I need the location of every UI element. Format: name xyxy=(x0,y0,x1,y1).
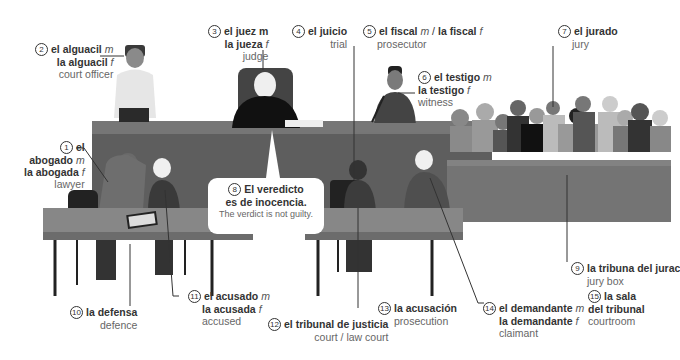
label-accused: 11el acusado m la acusada f accused xyxy=(188,290,270,327)
term-es: el juicio xyxy=(308,25,347,37)
term-es: la acusación xyxy=(394,302,457,314)
term-es-f: la abogada xyxy=(24,166,79,178)
verdict-text-en: The verdict is not guilty. xyxy=(208,208,324,220)
label-number: 6 xyxy=(418,71,431,84)
term-es: el jurado xyxy=(574,25,618,37)
label-number: 10 xyxy=(70,306,83,319)
gender-marker: f xyxy=(82,166,85,178)
term-es-1: la sala xyxy=(604,290,636,302)
term-en: lawyer xyxy=(24,178,85,190)
label-prosecutor: 5el fiscal m / la fiscal f prosecutor xyxy=(363,25,482,50)
gender-marker: m xyxy=(575,302,584,314)
term-en: court officer xyxy=(35,68,113,80)
term-es-f: la jueza xyxy=(225,38,263,50)
label-judge: 3el juez m la jueza f judge xyxy=(208,25,268,62)
term-en: jury xyxy=(558,38,618,50)
label-trial: 4el juicio trial xyxy=(292,25,347,50)
gender-marker: m xyxy=(105,43,114,55)
label-lawyer: 1el el abogadoabogado m la abogada f law… xyxy=(24,141,85,190)
term-es-f: la acusada xyxy=(202,303,256,315)
label-defence: 10la defensa defence xyxy=(70,306,137,331)
term-en: trial xyxy=(292,38,347,50)
label-number: 1 xyxy=(60,141,73,154)
judge-figure xyxy=(232,68,323,128)
term-es-m: el fiscal xyxy=(379,25,418,37)
label-number: 9 xyxy=(571,262,584,275)
term-es-m: el alguacil xyxy=(51,43,102,55)
gender-marker: m xyxy=(76,154,85,166)
court-officer-figure xyxy=(114,45,156,122)
label-number: 14 xyxy=(483,302,496,315)
gender-marker: f xyxy=(265,38,268,50)
term-es-f: la testigo xyxy=(418,84,464,96)
gender-marker: f xyxy=(479,25,482,37)
term-en: prosecutor xyxy=(363,38,482,50)
verdict-speech-bubble: 8El veredicto es de inocencia. The verdi… xyxy=(208,178,324,234)
term-es-m: el juez m xyxy=(224,25,268,37)
jury-box xyxy=(447,160,671,222)
term-en: judge xyxy=(208,50,268,62)
label-witness: 6el testigo m la testigo f witness xyxy=(418,71,492,108)
term-en: jury box xyxy=(571,275,680,287)
label-claimant: 14el demandante m la demandante f claima… xyxy=(483,302,584,339)
witness-figure xyxy=(372,66,416,125)
gender-marker: f xyxy=(575,315,578,327)
label-number: 3 xyxy=(208,25,221,38)
term-es-f: la alguacil xyxy=(57,56,108,68)
term-en: court / law court xyxy=(268,331,388,343)
label-court: 12el tribunal de justicia court / law co… xyxy=(268,318,388,343)
label-number: 5 xyxy=(363,25,376,38)
label-number: 13 xyxy=(378,302,391,315)
term-es-f: la demandante xyxy=(499,315,573,327)
label-courtroom: 15la sala del tribunal courtroom xyxy=(588,290,645,327)
gender-marker: m xyxy=(261,290,270,302)
term-en: claimant xyxy=(483,327,584,339)
term-en: prosecution xyxy=(378,315,457,327)
term-es: el tribunal de justicia xyxy=(284,318,388,330)
label-number: 8 xyxy=(228,183,241,196)
gender-marker: f xyxy=(467,84,470,96)
term-en: witness xyxy=(418,96,492,108)
label-number: 4 xyxy=(292,25,305,38)
verdict-text-es-1: El veredicto xyxy=(244,183,304,195)
term-en: accused xyxy=(188,315,270,327)
label-prosecution: 13la acusación prosecution xyxy=(378,302,457,327)
label-court-officer: 2el alguacil m la alguacil f court offic… xyxy=(35,43,113,80)
term-en: courtroom xyxy=(588,315,645,327)
term-es: la tribuna del jurac xyxy=(587,262,680,274)
verdict-text-es-2: es de inocencia. xyxy=(225,196,306,208)
label-number: 11 xyxy=(188,290,201,303)
label-number: 2 xyxy=(35,43,48,56)
term-es-f: la fiscal xyxy=(438,25,477,37)
term-es-m: el demandante xyxy=(499,302,573,314)
term-es-m: el testigo xyxy=(434,71,480,83)
prosecution-table xyxy=(305,208,463,236)
term-es-m: el acusado xyxy=(204,290,258,302)
gender-marker: m xyxy=(420,25,429,37)
term-es-2: del tribunal xyxy=(588,303,645,315)
gender-marker: f xyxy=(111,56,114,68)
gender-marker: f xyxy=(259,303,262,315)
label-jury: 7el jurado jury xyxy=(558,25,618,50)
label-number: 15 xyxy=(588,290,601,303)
term-es: la defensa xyxy=(86,306,137,318)
term-en: defence xyxy=(70,319,137,331)
label-number: 7 xyxy=(558,25,571,38)
gender-marker: m xyxy=(483,71,492,83)
label-number: 12 xyxy=(268,318,281,331)
label-jury-box: 9la tribuna del jurac jury box xyxy=(571,262,680,287)
